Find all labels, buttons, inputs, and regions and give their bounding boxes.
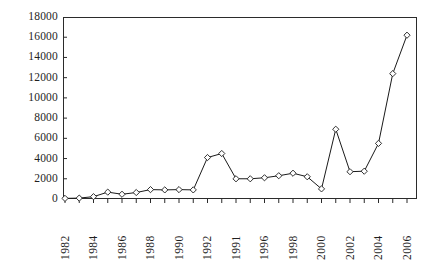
x-tick-label: 1992	[202, 208, 213, 260]
data-point-marker	[105, 189, 111, 195]
data-point-marker	[233, 176, 239, 182]
data-point-marker	[333, 126, 339, 132]
x-tick-label: 1991	[231, 208, 242, 260]
x-tick-label: 1998	[288, 208, 299, 260]
y-tick-label: 4000	[0, 153, 58, 165]
data-point-marker	[219, 150, 225, 156]
x-tick-label: 2002	[345, 208, 356, 260]
x-tick-label: 1986	[117, 208, 128, 260]
data-point-marker	[176, 187, 182, 193]
data-point-marker	[162, 187, 168, 193]
y-tick-label: 12000	[0, 72, 58, 84]
series-markers	[62, 32, 410, 201]
data-point-marker	[276, 173, 282, 179]
y-tick-label: 2000	[0, 173, 58, 185]
x-axis: 1982198419861988199019921991199619982000…	[63, 199, 417, 269]
data-point-marker	[347, 169, 353, 175]
x-tick-label: 2004	[373, 208, 384, 260]
x-tick-label: 1982	[60, 208, 71, 260]
data-point-marker	[147, 187, 153, 193]
y-tick-label: 14000	[0, 51, 58, 63]
data-point-marker	[375, 140, 381, 146]
data-point-marker	[190, 187, 196, 193]
y-tick-label: 6000	[0, 132, 58, 144]
x-tick-label: 1988	[145, 208, 156, 260]
y-axis: 0200040006000800010000120001400016000180…	[0, 0, 58, 269]
x-tick-label: 1996	[259, 208, 270, 260]
data-point-marker	[390, 71, 396, 77]
data-point-marker	[404, 32, 410, 38]
x-tick-label: 2000	[316, 208, 327, 260]
data-point-marker	[133, 189, 139, 195]
data-point-marker	[261, 175, 267, 181]
y-axis-tick-marks	[63, 37, 67, 179]
data-point-marker	[361, 168, 367, 174]
series-line	[65, 35, 407, 198]
line-chart-figure: 0200040006000800010000120001400016000180…	[0, 0, 438, 269]
x-tick-label: 2006	[402, 208, 413, 260]
chart-data-series	[63, 17, 417, 199]
x-tick-label: 1984	[88, 208, 99, 260]
y-tick-label: 8000	[0, 112, 58, 124]
y-tick-label: 0	[0, 193, 58, 205]
y-tick-label: 10000	[0, 92, 58, 104]
data-point-marker	[247, 176, 253, 182]
x-tick-label: 1990	[174, 208, 185, 260]
data-point-marker	[119, 191, 125, 197]
y-tick-label: 18000	[0, 11, 58, 23]
y-tick-label: 16000	[0, 31, 58, 43]
data-point-marker	[204, 154, 210, 160]
data-point-marker	[290, 170, 296, 176]
